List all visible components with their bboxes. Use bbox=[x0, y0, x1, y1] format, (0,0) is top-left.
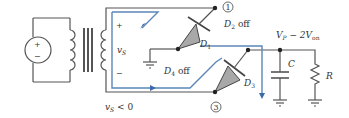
d3-label: D3 bbox=[243, 78, 255, 89]
node-1-label: 1 bbox=[223, 2, 233, 12]
capacitor-label: C bbox=[288, 59, 295, 69]
transformer-secondary-coil bbox=[101, 30, 106, 70]
capacitor bbox=[271, 72, 289, 78]
source-plus: + bbox=[34, 40, 41, 49]
output-voltage-label: VP − 2Von bbox=[276, 30, 320, 41]
circuit-svg: + − bbox=[0, 0, 349, 118]
d1-label: D1 bbox=[199, 39, 211, 50]
ground-icon bbox=[143, 62, 157, 68]
source-minus: − bbox=[34, 52, 41, 61]
svg-text:3: 3 bbox=[214, 103, 219, 112]
node-3-label: 3 bbox=[211, 102, 221, 112]
transformer-core bbox=[84, 28, 92, 72]
transformer-primary-coil bbox=[70, 18, 75, 82]
d4-label: D4 off bbox=[163, 66, 190, 77]
secondary-voltage-label: vS bbox=[117, 45, 126, 56]
ground-icon bbox=[308, 100, 322, 106]
resistor-label: R bbox=[325, 71, 333, 81]
svg-text:1: 1 bbox=[226, 3, 231, 12]
bridge-wires bbox=[106, 8, 315, 100]
ground-icon bbox=[273, 100, 287, 106]
rectifier-circuit-diagram: + − bbox=[0, 0, 349, 118]
ac-source bbox=[25, 18, 70, 82]
resistor bbox=[311, 62, 319, 86]
secondary-minus: − bbox=[116, 69, 123, 78]
condition-label: vS < 0 bbox=[105, 102, 133, 113]
secondary-plus: + bbox=[116, 21, 123, 30]
d2-label: D2 off bbox=[223, 19, 250, 30]
